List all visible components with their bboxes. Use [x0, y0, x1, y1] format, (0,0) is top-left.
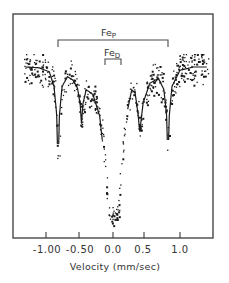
- data-point: [26, 54, 27, 55]
- data-point: [176, 63, 177, 64]
- x-tick-label: 1.0: [171, 244, 188, 255]
- data-point: [42, 71, 44, 73]
- data-point: [188, 69, 190, 71]
- data-point: [186, 54, 187, 55]
- data-point: [193, 85, 195, 87]
- data-point: [40, 80, 42, 82]
- data-point: [107, 198, 108, 199]
- data-point: [191, 62, 192, 63]
- data-point: [179, 86, 180, 87]
- data-point: [43, 86, 44, 87]
- data-point: [102, 119, 103, 120]
- data-point: [112, 219, 113, 220]
- data-point: [183, 75, 184, 76]
- data-point: [179, 56, 180, 57]
- data-point: [81, 126, 83, 128]
- data-point: [29, 83, 30, 84]
- data-point: [109, 207, 110, 208]
- data-point: [199, 61, 201, 63]
- fitted-curve: [26, 67, 207, 144]
- data-point: [132, 98, 133, 99]
- data-point: [111, 216, 113, 218]
- data-point: [183, 79, 184, 80]
- data-point: [160, 66, 161, 67]
- data-point: [121, 163, 122, 164]
- data-point: [151, 75, 152, 76]
- data-point: [190, 79, 191, 80]
- data-point: [93, 91, 94, 92]
- data-point: [84, 109, 85, 110]
- data-point: [184, 57, 185, 58]
- data-point: [114, 215, 116, 217]
- data-point: [45, 78, 46, 79]
- data-point: [103, 146, 105, 148]
- data-point: [161, 74, 162, 75]
- data-point: [96, 112, 97, 113]
- data-point: [57, 158, 58, 159]
- data-point: [158, 70, 159, 71]
- data-point: [162, 98, 164, 100]
- mossbauer-spectrum-chart: FeP FeD -1.00 -0.50 0.0 0.5 1.0 Velocity…: [0, 0, 229, 283]
- data-point: [194, 78, 195, 79]
- data-point: [118, 209, 119, 210]
- data-point: [142, 124, 143, 125]
- data-point: [181, 73, 182, 74]
- data-point: [45, 62, 46, 63]
- data-point: [39, 76, 40, 77]
- data-point: [33, 54, 34, 55]
- data-point: [75, 74, 76, 75]
- data-point: [206, 63, 207, 64]
- data-point: [65, 72, 67, 74]
- data-point: [142, 118, 144, 120]
- data-point: [151, 79, 152, 80]
- data-point: [37, 71, 39, 73]
- data-point: [172, 95, 174, 97]
- data-point: [30, 68, 31, 69]
- data-point: [153, 95, 155, 97]
- data-point: [126, 121, 127, 122]
- data-point: [25, 81, 27, 83]
- data-point: [104, 161, 105, 162]
- data-point: [133, 87, 134, 88]
- data-point: [194, 64, 195, 65]
- data-point: [89, 106, 91, 108]
- data-point: [66, 91, 67, 92]
- data-point: [71, 64, 72, 65]
- data-point: [82, 124, 83, 125]
- data-point: [146, 99, 147, 100]
- data-point: [26, 77, 28, 79]
- data-point: [208, 58, 209, 59]
- data-point: [86, 80, 87, 81]
- data-point: [57, 124, 58, 125]
- data-point: [194, 59, 196, 61]
- data-point: [194, 75, 196, 77]
- data-point: [183, 54, 184, 55]
- data-point: [49, 83, 51, 85]
- data-point: [157, 67, 158, 68]
- data-point: [195, 71, 197, 73]
- fe-p-annotation: FeP: [58, 27, 168, 47]
- data-point: [161, 72, 162, 73]
- data-point: [43, 64, 44, 65]
- x-tick-label: -1.00: [33, 244, 61, 255]
- data-point: [68, 85, 69, 86]
- data-point: [177, 65, 179, 67]
- data-point: [116, 213, 118, 215]
- data-point: [150, 88, 151, 89]
- data-point: [55, 80, 56, 81]
- data-point: [194, 54, 195, 55]
- data-point: [45, 59, 46, 60]
- data-point: [158, 74, 159, 75]
- data-point: [113, 213, 114, 214]
- data-point: [64, 89, 65, 90]
- data-point: [25, 68, 26, 69]
- data-point: [184, 81, 186, 83]
- data-point: [150, 89, 151, 90]
- data-point: [119, 194, 121, 196]
- data-point: [54, 78, 55, 79]
- data-point: [140, 135, 141, 136]
- data-point: [176, 83, 178, 85]
- data-point: [72, 83, 73, 84]
- data-point: [198, 59, 199, 60]
- data-point: [204, 59, 205, 60]
